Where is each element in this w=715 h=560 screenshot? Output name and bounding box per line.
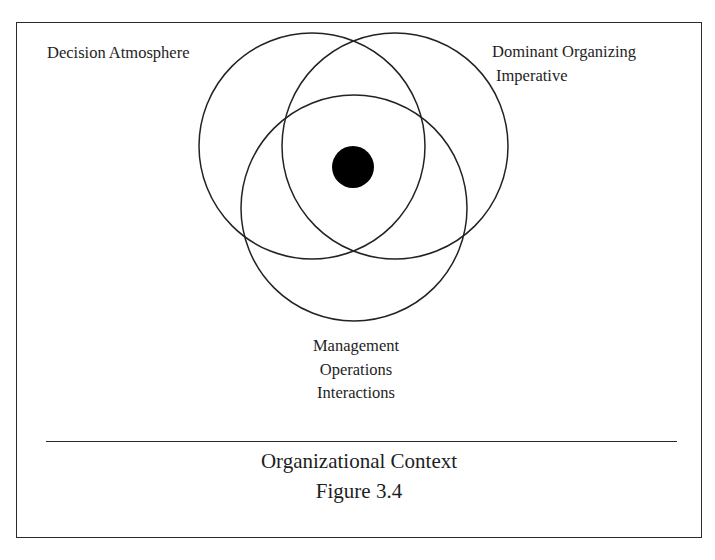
label-management-operations-interactions: Management Operations Interactions <box>296 334 416 405</box>
caption-divider <box>46 441 677 442</box>
circle-decision-atmosphere <box>199 33 425 259</box>
caption-figure-number: Figure 3.4 <box>16 476 702 506</box>
label-management-line3: Interactions <box>296 381 416 405</box>
label-dominant-organizing-imperative: Dominant Organizing Imperative <box>492 40 636 88</box>
caption-title: Organizational Context <box>16 446 702 476</box>
label-decision-atmosphere: Decision Atmosphere <box>47 41 190 65</box>
label-dominant-line1: Dominant Organizing <box>492 40 636 64</box>
center-dot <box>332 146 374 188</box>
label-dominant-line2: Imperative <box>492 64 636 88</box>
circle-management-operations-interactions <box>241 95 467 321</box>
circle-dominant-organizing-imperative <box>282 33 508 259</box>
label-management-line2: Operations <box>296 358 416 382</box>
label-management-line1: Management <box>296 334 416 358</box>
